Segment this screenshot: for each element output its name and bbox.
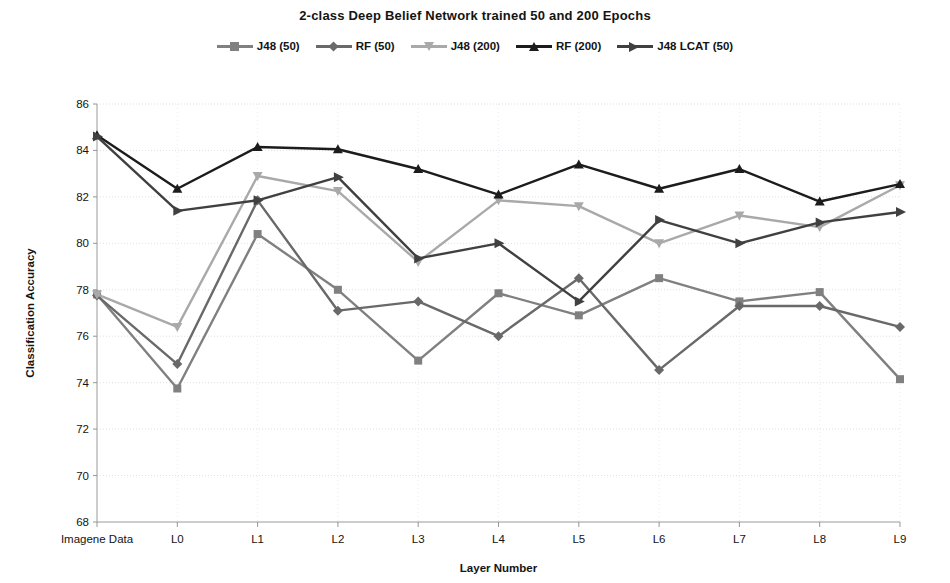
marker-rf-200 — [734, 164, 744, 173]
x-tick-label: L4 — [492, 533, 505, 545]
y-tick-label: 78 — [76, 284, 89, 296]
x-tick-label: L2 — [332, 533, 345, 545]
y-tick-label: 74 — [76, 377, 89, 389]
marker-rf-50 — [895, 322, 905, 332]
y-tick-label: 84 — [76, 144, 89, 156]
marker-j48-lcat-50 — [655, 215, 665, 225]
y-tick-label: 76 — [76, 330, 89, 342]
marker-j48-lcat-50 — [173, 206, 183, 216]
marker-rf-50 — [815, 301, 825, 311]
marker-j48-lcat-50 — [896, 207, 906, 217]
x-tick-label: L5 — [572, 533, 585, 545]
y-tick-label: 82 — [76, 191, 89, 203]
marker-j48-50 — [254, 230, 262, 238]
x-tick-label: L1 — [251, 533, 264, 545]
marker-j48-50 — [896, 375, 904, 383]
marker-j48-200 — [172, 323, 182, 332]
marker-j48-50 — [655, 274, 663, 282]
marker-rf-50 — [413, 296, 423, 306]
marker-j48-50 — [495, 289, 503, 297]
x-tick-label: L3 — [412, 533, 425, 545]
y-tick-label: 86 — [76, 98, 89, 110]
x-tick-label: Imagene Data — [61, 533, 134, 545]
marker-j48-50 — [414, 357, 422, 365]
x-tick-label: L8 — [813, 533, 826, 545]
x-tick-label: L6 — [653, 533, 666, 545]
marker-j48-50 — [173, 384, 181, 392]
series-line-j48-50 — [97, 234, 900, 388]
x-tick-label: L0 — [171, 533, 184, 545]
x-axis-title: Layer Number — [460, 562, 538, 574]
marker-j48-lcat-50 — [735, 238, 745, 248]
x-tick-label: L9 — [894, 533, 907, 545]
marker-j48-50 — [575, 311, 583, 319]
y-tick-label: 70 — [76, 470, 89, 482]
y-tick-label: 72 — [76, 423, 89, 435]
line-chart-svg: 68707274767880828486Imagene DataL0L1L2L3… — [0, 0, 950, 583]
marker-j48-200 — [654, 239, 664, 248]
plot-area: 68707274767880828486Imagene DataL0L1L2L3… — [0, 0, 950, 583]
marker-j48-50 — [816, 288, 824, 296]
chart-container: 2-class Deep Belief Network trained 50 a… — [0, 0, 950, 583]
y-axis-title: Classification Accuracy — [24, 248, 36, 378]
y-tick-label: 68 — [76, 516, 89, 528]
marker-j48-50 — [334, 286, 342, 294]
marker-rf-200 — [574, 159, 584, 168]
y-tick-label: 80 — [76, 237, 89, 249]
x-tick-label: L7 — [733, 533, 746, 545]
